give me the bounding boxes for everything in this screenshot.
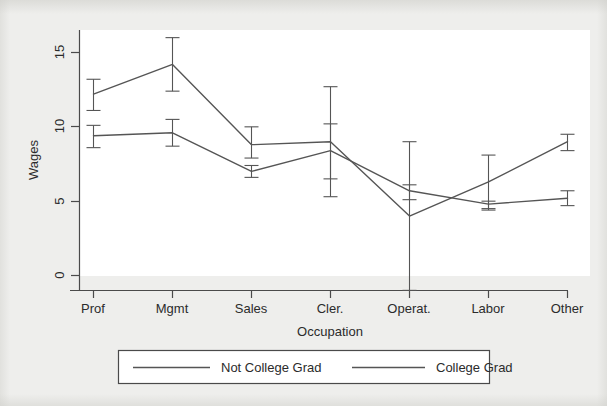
x-axis-title: Occupation bbox=[297, 324, 363, 339]
y-tick-label-15: 15 bbox=[52, 45, 67, 59]
y-axis-ticks bbox=[71, 53, 79, 276]
y-axis-title: Wages bbox=[26, 140, 41, 180]
x-tick-label-labor: Labor bbox=[471, 301, 505, 316]
legend-label-not-college-grad: Not College Grad bbox=[221, 360, 321, 375]
x-tick-label-sales: Sales bbox=[235, 301, 268, 316]
y-tick-label-10: 10 bbox=[52, 119, 67, 133]
x-tick-label-other: Other bbox=[551, 301, 584, 316]
x-tick-label-operat: Operat. bbox=[387, 301, 430, 316]
figure-canvas: 15 10 5 0 Wages Prof Mgmt Sales Cler. Op… bbox=[0, 0, 607, 406]
x-axis-ticks bbox=[94, 291, 568, 298]
x-tick-label-prof: Prof bbox=[81, 301, 105, 316]
wages-by-occupation-line-chart: 15 10 5 0 Wages Prof Mgmt Sales Cler. Op… bbox=[0, 0, 607, 406]
y-tick-label-0: 0 bbox=[52, 271, 67, 278]
x-tick-label-mgmt: Mgmt bbox=[156, 301, 189, 316]
legend-label-college-grad: College Grad bbox=[436, 360, 513, 375]
y-tick-label-5: 5 bbox=[52, 197, 67, 204]
x-tick-label-cler: Cler. bbox=[317, 301, 344, 316]
